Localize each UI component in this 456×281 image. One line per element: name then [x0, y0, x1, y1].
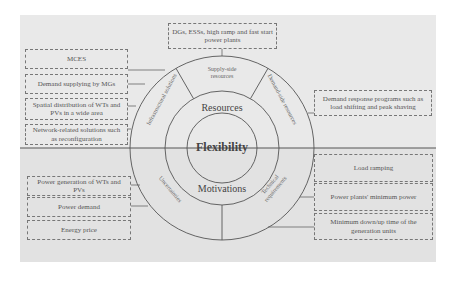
separator-infra-supply — [176, 68, 194, 98]
resources-label: Resources — [187, 102, 257, 113]
box-min-down-up-time: Minimum down/up time of the generation u… — [314, 213, 433, 240]
flexibility-label: Flexibility — [187, 140, 257, 155]
box-demand-supplying-mgs: Demand supplying by MGs — [25, 74, 128, 94]
supply-side-resources-label: Supply-side resources — [196, 66, 248, 80]
box-load-ramping: Load ramping — [314, 154, 433, 182]
box-mces: MCES — [25, 49, 128, 69]
box-network-solutions: Network-related solutions such as reconf… — [25, 124, 128, 145]
box-spatial-distribution: Spatial distribution of WTs and PVs in a… — [25, 98, 128, 120]
box-supply-side: DGs, ESSs, high ramp and fast start powe… — [168, 23, 277, 49]
box-power-demand: Power demand — [27, 197, 131, 217]
box-demand-response: Demand response programs such as load sh… — [314, 90, 432, 116]
box-power-generation: Power generation of WTs and PVs — [27, 176, 131, 196]
box-min-power: Power plants' minimum power — [314, 183, 433, 211]
box-energy-price: Energy price — [27, 220, 131, 240]
motivations-label: Motivations — [187, 183, 257, 194]
